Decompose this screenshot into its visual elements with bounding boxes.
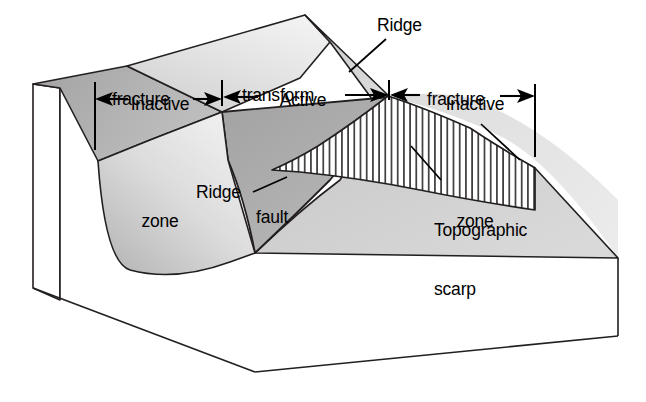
label-ridge-top: Ridge	[377, 16, 422, 36]
block-left-side-face	[33, 84, 60, 300]
label-active-line3: fault	[238, 208, 368, 228]
label-inactive-right-word-fracture: fracture	[427, 90, 485, 110]
transform-fault-block-diagram: Inactive fracture zone fracture Active t…	[0, 0, 646, 402]
label-inactive-left-word-fracture: fracture	[112, 90, 170, 110]
label-inactive-left-line3: zone	[100, 212, 220, 232]
label-scarp-line2: scarp	[434, 280, 527, 300]
label-scarp-line1: Topographic	[434, 221, 527, 241]
label-topographic-scarp: Topographic scarp	[434, 182, 527, 338]
label-active-word-transform: transform	[242, 86, 314, 106]
label-ridge-lower: Ridge	[196, 183, 241, 203]
